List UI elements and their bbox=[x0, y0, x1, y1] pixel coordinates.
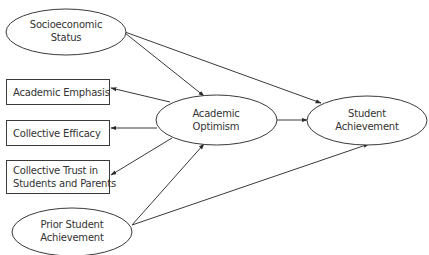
node-socioeconomic-status: Socioeconomic Status bbox=[6, 9, 126, 55]
academic-optimism-label-line-2: Optimism bbox=[193, 121, 240, 132]
collective-trust-label-line-1: Collective Trust in bbox=[13, 165, 98, 176]
academic-optimism-ellipse bbox=[156, 95, 277, 145]
node-student-achievement: Student Achievement bbox=[307, 96, 427, 145]
edge-optimism-to-academic-emphasis bbox=[111, 88, 170, 102]
edge-optimism-to-collective-trust bbox=[111, 138, 172, 175]
node-prior-student-achievement: Prior Student Achievement bbox=[12, 208, 132, 255]
student-achievement-label-line-1: Student bbox=[348, 108, 386, 119]
academic-optimism-label-line-1: Academic bbox=[192, 108, 239, 119]
ses-label-line-1: Socioeconomic bbox=[30, 19, 103, 30]
node-academic-optimism: Academic Optimism bbox=[156, 95, 277, 145]
node-academic-emphasis: Academic Emphasis bbox=[7, 80, 110, 105]
ses-label-line-2: Status bbox=[51, 32, 82, 43]
student-achievement-label-line-2: Achievement bbox=[335, 121, 399, 132]
prior-achievement-label-line-2: Achievement bbox=[40, 232, 104, 243]
node-collective-efficacy: Collective Efficacy bbox=[7, 121, 110, 146]
path-diagram: Socioeconomic Status Academic Emphasis C… bbox=[0, 0, 429, 255]
collective-trust-label-line-2: Students and Parents bbox=[13, 178, 116, 189]
academic-emphasis-label: Academic Emphasis bbox=[13, 87, 110, 98]
edge-ses-to-student-achievement bbox=[125, 32, 321, 103]
edge-ses-to-academic-optimism bbox=[125, 33, 204, 96]
node-collective-trust: Collective Trust in Students and Parents bbox=[7, 161, 116, 194]
prior-achievement-label-line-1: Prior Student bbox=[41, 219, 104, 230]
collective-efficacy-label: Collective Efficacy bbox=[13, 128, 101, 139]
